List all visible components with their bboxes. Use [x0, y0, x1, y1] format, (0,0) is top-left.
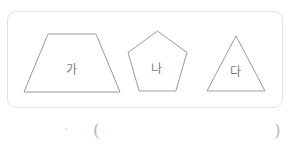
pentagon-icon — [128, 31, 187, 91]
shape-item-triangle[interactable]: 다 — [207, 36, 265, 91]
shape-group-box: 가 나 다 — [7, 11, 283, 108]
shape-item-trapezoid[interactable]: 가 — [24, 34, 120, 92]
worksheet-page: 가 나 다 ( ) — [0, 0, 290, 148]
pentagon-outline — [128, 31, 187, 91]
shape-item-pentagon[interactable]: 나 — [128, 31, 187, 91]
stray-mark — [65, 128, 68, 130]
triangle-icon — [207, 36, 265, 91]
shape-label-pentagon: 나 — [151, 63, 162, 75]
shape-label-triangle: 다 — [230, 66, 241, 78]
answer-open-paren: ( — [93, 122, 100, 139]
shape-label-trapezoid: 가 — [66, 64, 77, 76]
triangle-outline — [207, 36, 265, 91]
answer-close-paren: ) — [274, 122, 281, 139]
